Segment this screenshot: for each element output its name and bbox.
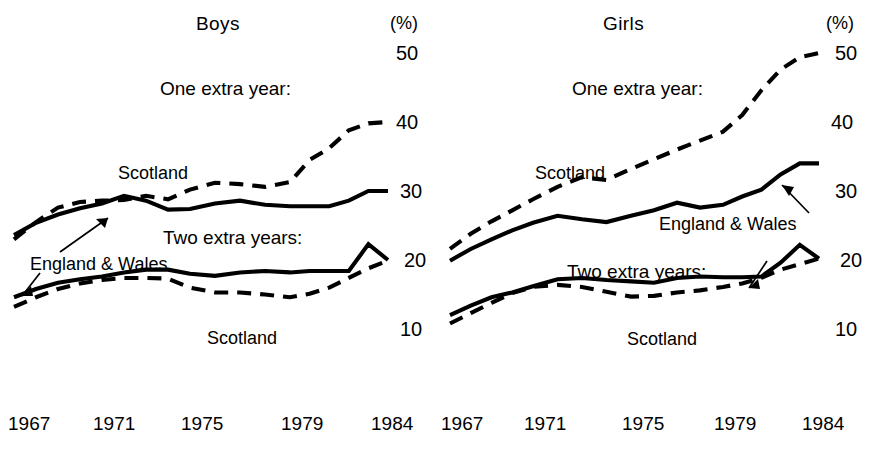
- ytick-boys-30: 30: [400, 181, 422, 201]
- panel-girls: Girls (%) 50 40 30 20 10 One extra year:…: [437, 0, 874, 460]
- percent-symbol-boys: (%): [390, 14, 418, 32]
- figure-root: Boys (%) 50 40 30 20 10 One extra year: …: [0, 0, 875, 460]
- ytick-girls-20: 20: [840, 250, 862, 270]
- xtick-boys-1979: 1979: [281, 414, 323, 433]
- ytick-boys-50: 50: [396, 43, 418, 63]
- series-line-boys-one-extra-year-scotland: [14, 122, 388, 239]
- xtick-girls-1984: 1984: [802, 414, 844, 433]
- xtick-girls-1967: 1967: [441, 414, 483, 433]
- leader-girls-england-wales-one-arrowhead: [782, 185, 794, 196]
- panel-boys: Boys (%) 50 40 30 20 10 One extra year: …: [0, 0, 437, 460]
- xtick-girls-1971: 1971: [524, 414, 566, 433]
- ytick-boys-10: 10: [400, 319, 422, 339]
- leader-boys-england-wales-two-arrowhead: [22, 286, 33, 296]
- panel-title-girls: Girls: [603, 14, 644, 33]
- xtick-boys-1984: 1984: [371, 414, 413, 433]
- panel-title-boys: Boys: [196, 14, 240, 33]
- series-label-girls-scotland-upper: Scotland: [535, 164, 605, 182]
- group-label-boys-two-extra-years: Two extra years:: [163, 228, 302, 247]
- ytick-girls-10: 10: [835, 319, 857, 339]
- xtick-boys-1975: 1975: [181, 414, 223, 433]
- series-label-boys-scotland-lower: Scotland: [207, 329, 277, 347]
- xtick-boys-1967: 1967: [8, 414, 50, 433]
- ytick-boys-40: 40: [396, 112, 418, 132]
- xtick-boys-1971: 1971: [93, 414, 135, 433]
- ytick-boys-20: 20: [404, 250, 426, 270]
- ytick-girls-30: 30: [835, 181, 857, 201]
- series-label-girls-england-wales: England & Wales: [659, 215, 796, 233]
- series-label-boys-scotland-upper: Scotland: [118, 164, 188, 182]
- series-line-girls-one-extra-year-england-wales: [450, 163, 819, 260]
- xtick-girls-1979: 1979: [714, 414, 756, 433]
- series-label-boys-england-wales: England & Wales: [30, 255, 167, 273]
- xtick-girls-1975: 1975: [622, 414, 664, 433]
- ytick-girls-50: 50: [835, 43, 857, 63]
- series-label-girls-scotland-lower: Scotland: [627, 330, 697, 348]
- group-label-girls-two-extra-years: Two extra years:: [567, 262, 706, 281]
- leader-boys-england-wales-one-arrowhead: [96, 218, 108, 228]
- group-label-boys-one-extra-year: One extra year:: [160, 79, 291, 98]
- group-label-girls-one-extra-year: One extra year:: [572, 79, 703, 98]
- percent-symbol-girls: (%): [826, 14, 854, 32]
- ytick-girls-40: 40: [831, 112, 853, 132]
